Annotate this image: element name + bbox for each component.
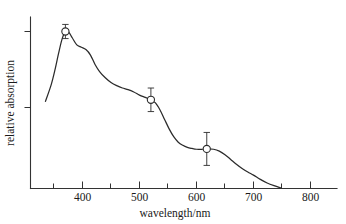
x-tick-label-500: 500 xyxy=(131,191,149,203)
x-axis-title: wavelength/nm xyxy=(140,207,211,220)
x-tick-label-800: 800 xyxy=(302,191,320,203)
data-point-marker xyxy=(147,96,154,103)
spectrum-curve xyxy=(45,31,280,188)
data-point-marker xyxy=(203,145,210,152)
data-point-marker xyxy=(62,28,69,35)
x-tick-label-700: 700 xyxy=(245,191,263,203)
x-axis-major-ticks xyxy=(83,182,311,189)
chart-canvas: 400 500 600 700 800 wavelength/nm relati… xyxy=(0,0,346,224)
x-axis-minor-ticks xyxy=(54,184,282,189)
x-tick-label-600: 600 xyxy=(188,191,206,203)
data-points-group xyxy=(62,24,211,165)
figure-absorption-spectrum: 400 500 600 700 800 wavelength/nm relati… xyxy=(0,0,346,224)
y-axis-title: relative absorption xyxy=(4,60,17,146)
y-axis-ticks xyxy=(25,32,31,108)
x-tick-label-400: 400 xyxy=(74,191,92,203)
